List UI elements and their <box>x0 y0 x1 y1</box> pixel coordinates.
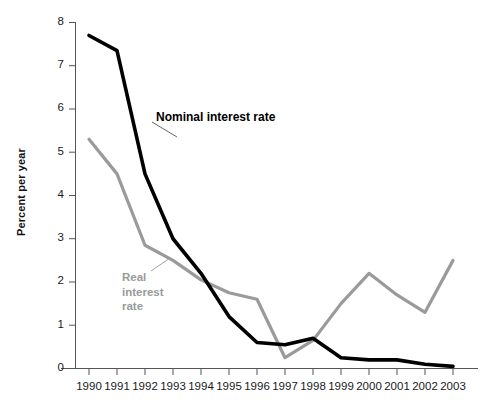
y-tick-label-4: 4 <box>42 188 64 200</box>
y-axis-title: Percent per year <box>15 132 27 252</box>
y-tick-label-2: 2 <box>42 274 64 286</box>
x-tick-label-2003: 2003 <box>436 380 470 392</box>
interest-rate-line-chart: Percent per year 8 7 6 5 4 3 2 1 0 1990 … <box>0 0 491 407</box>
y-tick-label-6: 6 <box>42 101 64 113</box>
y-axis-ticks <box>69 23 76 369</box>
x-axis-ticks <box>89 369 453 376</box>
y-tick-label-0: 0 <box>42 361 64 373</box>
real-annotation-line-2: interest <box>122 285 164 300</box>
nominal-series-annotation: Nominal interest rate <box>156 110 275 125</box>
real-series-annotation: Real interest rate <box>122 270 164 314</box>
y-tick-label-3: 3 <box>42 231 64 243</box>
y-tick-label-8: 8 <box>42 15 64 27</box>
chart-plot-area <box>0 0 491 407</box>
real-annotation-line-3: rate <box>122 299 164 314</box>
y-tick-label-7: 7 <box>42 58 64 70</box>
y-tick-label-1: 1 <box>42 318 64 330</box>
nominal-interest-rate-line <box>89 35 453 366</box>
real-annotation-line-1: Real <box>122 270 164 285</box>
y-tick-label-5: 5 <box>42 145 64 157</box>
